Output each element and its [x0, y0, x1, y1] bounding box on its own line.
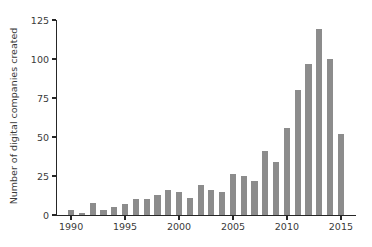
bar-1993: [100, 210, 106, 215]
y-axis-title: Number of digital companies created: [4, 14, 22, 218]
plot-area: 0255075100125 199019952000200520102015: [56, 20, 356, 215]
x-tick-1995: [124, 215, 125, 220]
x-tick-2005: [232, 215, 233, 220]
x-tick-label-1990: 1990: [59, 221, 83, 232]
y-tick-label-50: 50: [37, 132, 49, 143]
bar-1999: [165, 190, 171, 215]
bar-2008: [262, 151, 268, 215]
bar-1998: [154, 195, 160, 215]
y-tick-label-125: 125: [31, 15, 49, 26]
bar-chart: Number of digital companies created 0255…: [0, 0, 372, 247]
y-tick-label-75: 75: [37, 93, 49, 104]
bar-2009: [273, 162, 279, 215]
bar-2011: [295, 90, 301, 215]
bar-2006: [241, 176, 247, 215]
y-axis-title-text: Number of digital companies created: [8, 28, 19, 205]
bar-2012: [305, 64, 311, 215]
bar-2005: [230, 174, 236, 215]
x-axis-line: [56, 215, 356, 216]
x-tick-2015: [340, 215, 341, 220]
y-tick-label-0: 0: [43, 210, 49, 221]
bar-1996: [133, 199, 139, 215]
x-tick-label-1995: 1995: [113, 221, 137, 232]
y-tick-label-100: 100: [31, 54, 49, 65]
bar-2014: [327, 59, 333, 215]
x-tick-label-2005: 2005: [221, 221, 245, 232]
bar-1992: [90, 203, 96, 215]
bar-2001: [187, 198, 193, 215]
bar-2000: [176, 192, 182, 215]
bar-1995: [122, 204, 128, 215]
bar-2002: [198, 185, 204, 215]
bar-2010: [284, 128, 290, 215]
x-tick-label-2010: 2010: [275, 221, 299, 232]
bar-2013: [316, 29, 322, 215]
bar-1994: [111, 207, 117, 215]
bar-1990: [68, 210, 74, 215]
bar-2003: [208, 190, 214, 215]
x-tick-label-2015: 2015: [329, 221, 353, 232]
bar-2007: [251, 181, 257, 215]
x-tick-label-2000: 2000: [167, 221, 191, 232]
y-tick-label-25: 25: [37, 171, 49, 182]
x-tick-2010: [286, 215, 287, 220]
bar-2015: [338, 134, 344, 215]
bar-1991: [79, 213, 85, 215]
bar-2004: [219, 192, 225, 215]
x-tick-2000: [178, 215, 179, 220]
bar-1997: [144, 199, 150, 215]
bars-layer: [56, 20, 356, 215]
x-tick-1990: [70, 215, 71, 220]
